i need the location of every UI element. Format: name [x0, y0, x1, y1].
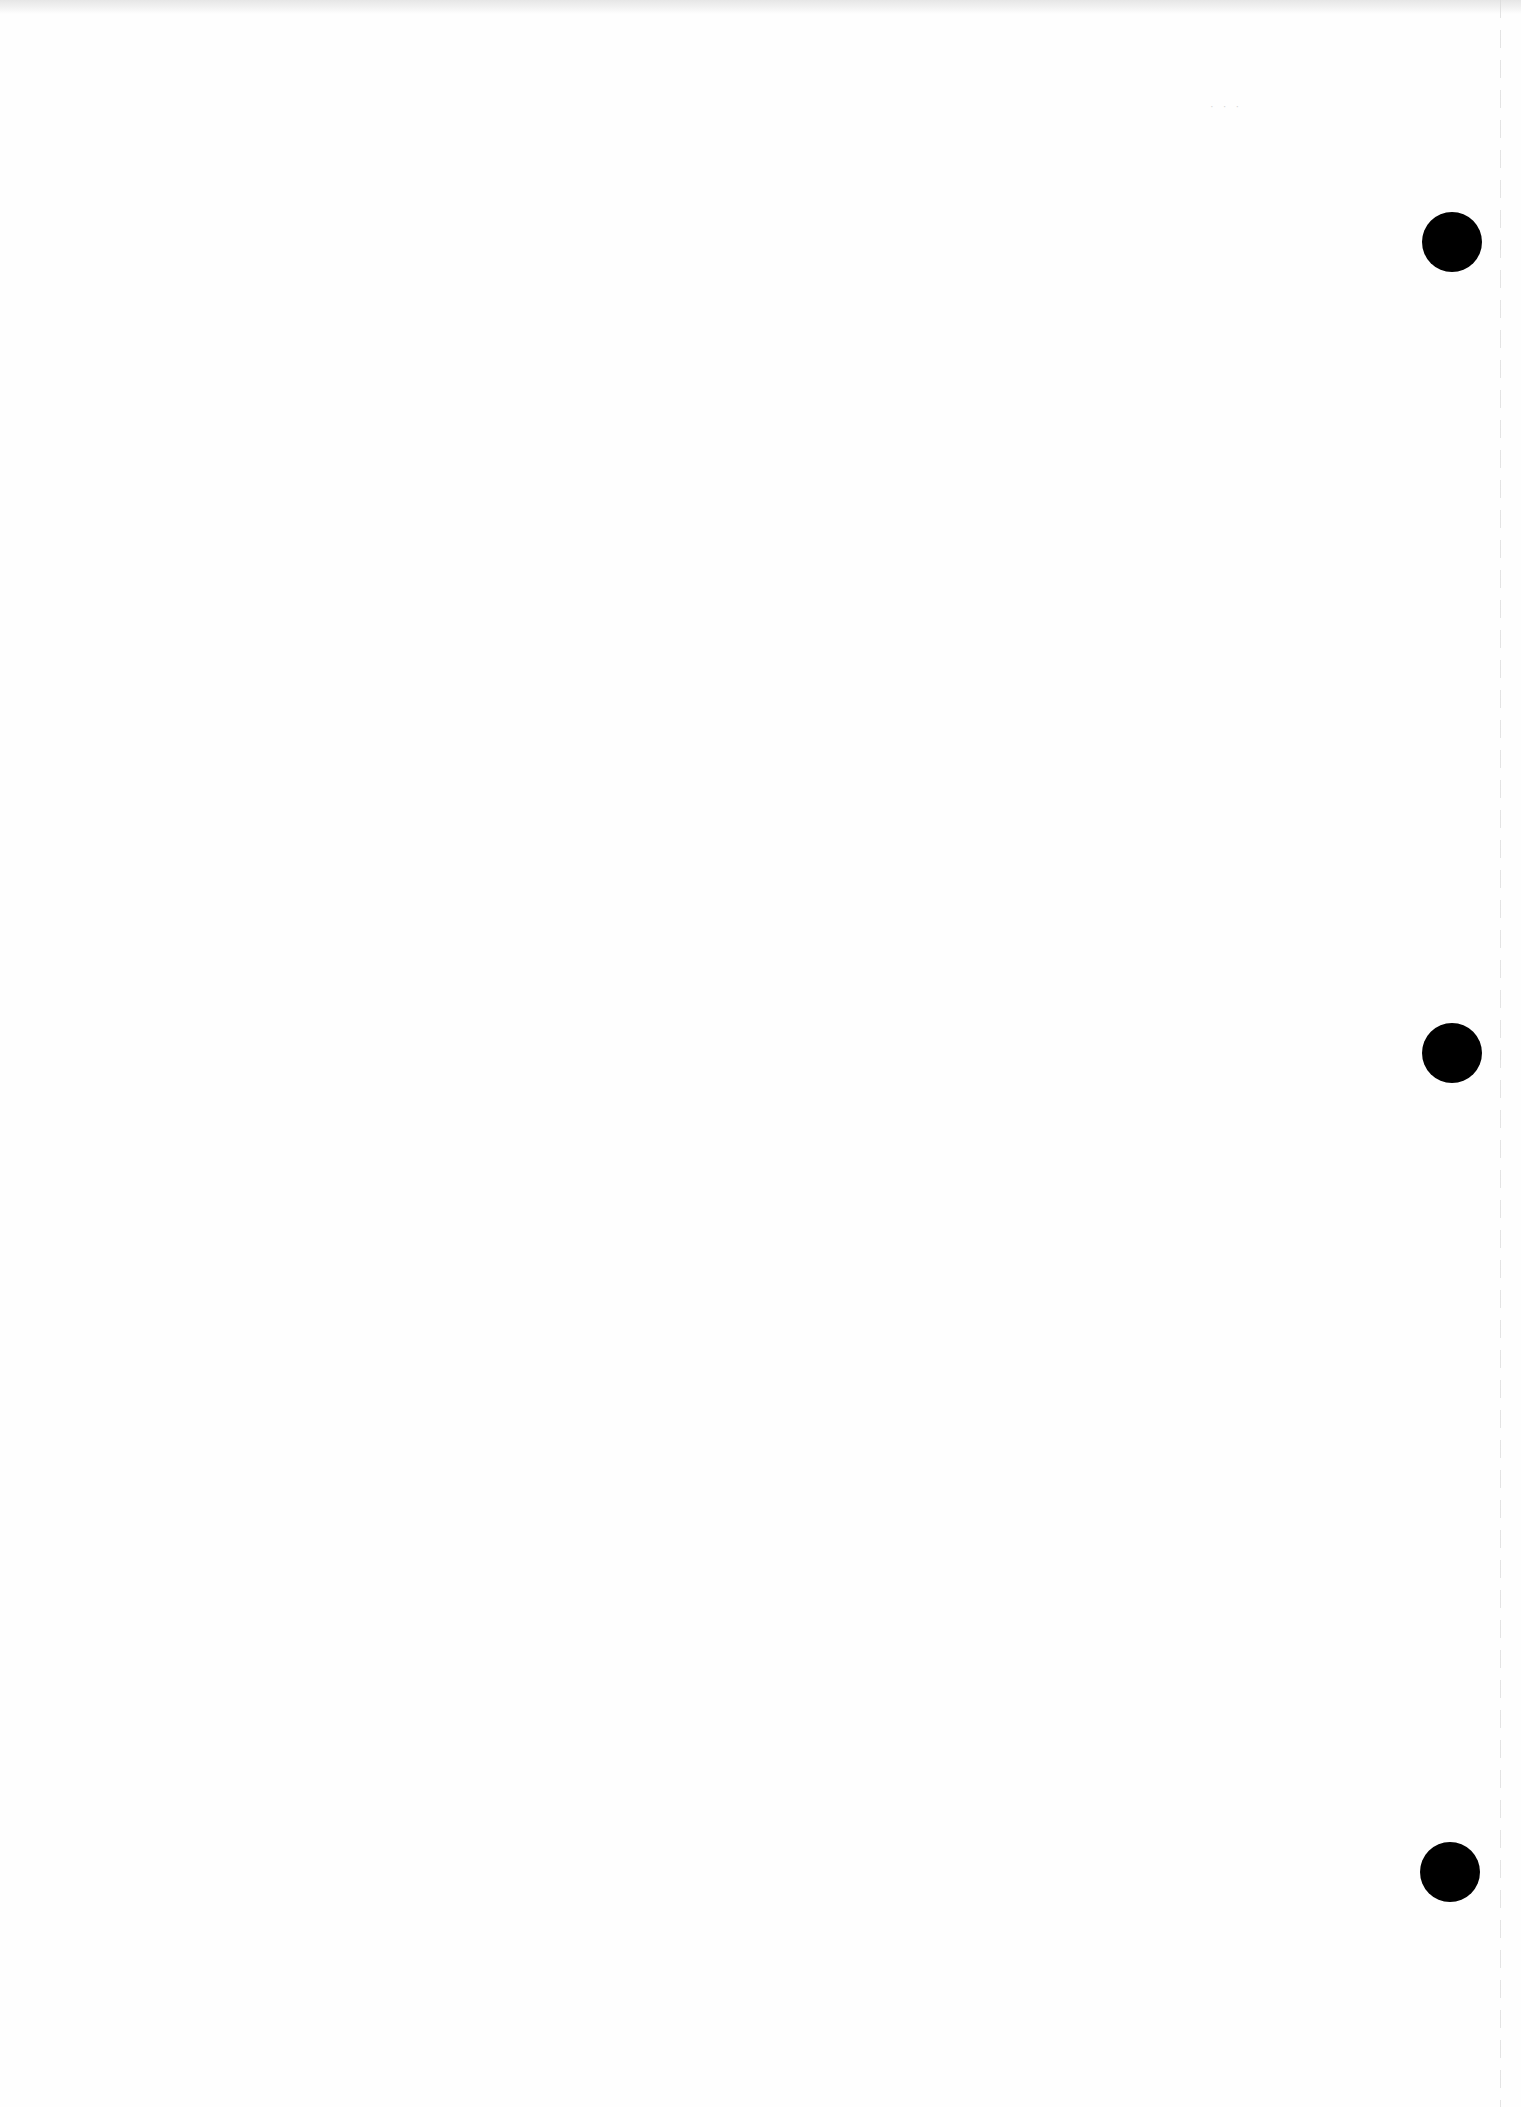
punch-hole-bottom: [1420, 1842, 1480, 1902]
punch-hole-top: [1422, 212, 1482, 272]
bleed-through-marks: · · ·: [1210, 100, 1242, 112]
page-edge-line: [1500, 0, 1501, 2107]
punch-hole-middle: [1422, 1023, 1482, 1083]
scanned-page: · · ·: [0, 0, 1521, 2107]
scan-top-shadow: [0, 0, 1521, 14]
